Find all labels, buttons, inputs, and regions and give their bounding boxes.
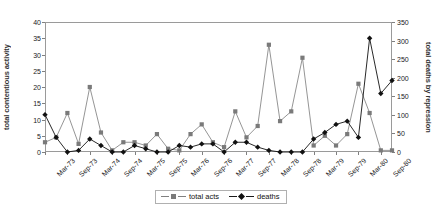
x-axis-tick-label: Sep-78	[302, 157, 323, 178]
diamond-marker-icon	[238, 193, 245, 200]
legend-label-total-acts: total acts	[188, 192, 220, 201]
legend-line-icon	[246, 196, 254, 197]
x-axis-tick-label: Mar-75	[145, 157, 166, 178]
y-axis-right-tick-mark	[392, 133, 395, 134]
y-axis-right-tick-label: 100	[397, 111, 419, 118]
x-axis-tick-mark	[179, 152, 180, 155]
x-axis-tick-label: Mar-77	[235, 157, 256, 178]
x-axis-tick-mark	[112, 152, 113, 155]
square-marker-icon	[171, 194, 176, 199]
chart-legend: total acts deaths	[155, 190, 287, 204]
legend-line-icon	[178, 196, 186, 197]
y-axis-left-tick-mark	[42, 38, 45, 39]
x-axis-tick-label: Mar-76	[190, 157, 211, 178]
y-axis-right-title: total deaths by repression	[422, 22, 434, 152]
y-axis-left-tick-label: 10	[23, 116, 41, 123]
x-axis-tick-label: Mar-74	[100, 157, 121, 178]
legend-line-icon	[229, 196, 237, 197]
x-axis-tick-mark	[157, 152, 158, 155]
y-axis-right-tick-mark	[392, 41, 395, 42]
x-axis-tick-label: Sep-73	[78, 157, 99, 178]
y-axis-left-tick-mark	[42, 103, 45, 104]
x-axis-tick-mark	[67, 152, 68, 155]
x-axis-tick-mark	[358, 152, 359, 155]
x-axis-tick-mark	[202, 152, 203, 155]
y-axis-right-tick-mark	[392, 59, 395, 60]
y-axis-left-tick-label: 30	[23, 51, 41, 58]
x-axis-tick-label: Mar-79	[324, 157, 345, 178]
x-axis-tick-mark	[45, 152, 46, 155]
x-axis-tick-mark	[314, 152, 315, 155]
x-axis-tick-mark	[90, 152, 91, 155]
y-axis-right-tick-mark	[392, 96, 395, 97]
y-axis-right-tick-mark	[392, 152, 395, 153]
y-axis-left-tick-label: 15	[23, 100, 41, 107]
y-axis-left-tick-label: 25	[23, 67, 41, 74]
x-axis-tick-mark	[246, 152, 247, 155]
y-axis-right-tick-label: 50	[397, 130, 419, 137]
y-axis-left-tick-label: 0	[23, 149, 41, 156]
x-axis-tick-label: Sep-75	[168, 157, 189, 178]
y-axis-left-tick-label: 5	[23, 132, 41, 139]
x-axis-tick-label: Sep-74	[123, 157, 144, 178]
x-axis-tick-mark	[291, 152, 292, 155]
x-axis-tick-label: Sep-79	[347, 157, 368, 178]
x-axis-tick-mark	[224, 152, 225, 155]
x-axis-tick-label: Sep-76	[212, 157, 233, 178]
y-axis-left-title: total contentious activity	[0, 22, 12, 152]
legend-item-total-acts[interactable]: total acts	[161, 192, 220, 201]
y-axis-left-tick-label: 40	[23, 19, 41, 26]
x-axis-tick-mark	[135, 152, 136, 155]
legend-item-deaths[interactable]: deaths	[229, 192, 281, 201]
y-axis-left-tick-mark	[42, 55, 45, 56]
x-axis-tick-label: Mar-73	[55, 157, 76, 178]
y-axis-right-tick-label: 350	[397, 19, 419, 26]
y-axis-right-tick-mark	[392, 115, 395, 116]
y-axis-right-tick-label: 200	[397, 74, 419, 81]
x-axis-tick-label: Mar-80	[369, 157, 390, 178]
y-axis-left-tick-mark	[42, 71, 45, 72]
y-axis-left-tick-mark	[42, 87, 45, 88]
legend-label-deaths: deaths	[256, 192, 281, 201]
y-axis-left-tick-mark	[42, 136, 45, 137]
y-axis-right-tick-label: 150	[397, 93, 419, 100]
y-axis-right-tick-label: 300	[397, 37, 419, 44]
y-axis-right-tick-label: 0	[397, 149, 419, 156]
plot-area	[45, 22, 392, 152]
y-axis-left-tick-mark	[42, 22, 45, 23]
y-axis-right-tick-label: 250	[397, 56, 419, 63]
x-axis-tick-label: Sep-80	[391, 157, 412, 178]
y-axis-left-tick-label: 20	[23, 84, 41, 91]
legend-line-icon	[161, 196, 169, 197]
y-axis-right-tick-mark	[392, 22, 395, 23]
x-axis-tick-label: Sep-77	[257, 157, 278, 178]
x-axis-tick-mark	[336, 152, 337, 155]
chart-container: total contentious activity total deaths …	[0, 0, 434, 218]
x-axis-tick-label: Mar-78	[279, 157, 300, 178]
y-axis-left-tick-mark	[42, 120, 45, 121]
y-axis-left-tick-label: 35	[23, 35, 41, 42]
x-axis-tick-mark	[269, 152, 270, 155]
x-axis-tick-mark	[381, 152, 382, 155]
y-axis-right-tick-mark	[392, 78, 395, 79]
